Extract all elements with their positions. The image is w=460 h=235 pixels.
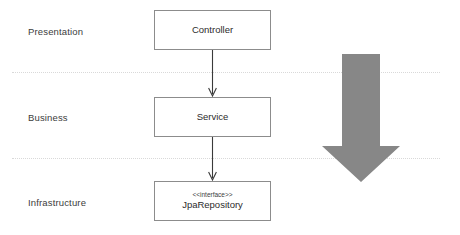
component-box-label: JpaRepository xyxy=(182,200,243,211)
connector-controller-to-service xyxy=(206,50,219,97)
component-box-label: Controller xyxy=(192,25,233,36)
large-arrow-down-icon xyxy=(320,54,402,184)
component-stereotype-label: <<interface>> xyxy=(192,191,232,198)
layer-label-business: Business xyxy=(28,113,68,123)
component-box-label: Service xyxy=(197,112,229,123)
connector-service-to-repository xyxy=(206,137,219,181)
arrow-down-icon xyxy=(206,50,219,97)
component-box-controller[interactable]: Controller xyxy=(154,10,271,50)
diagram-canvas: Presentation Business Infrastructure Con… xyxy=(0,0,460,235)
component-box-jparepository[interactable]: <<interface>> JpaRepository xyxy=(154,181,271,221)
flow-direction-arrow xyxy=(320,54,402,184)
arrow-down-icon xyxy=(206,137,219,181)
component-box-service[interactable]: Service xyxy=(154,97,271,137)
layer-label-presentation: Presentation xyxy=(28,27,83,37)
layer-label-infrastructure: Infrastructure xyxy=(28,198,86,208)
